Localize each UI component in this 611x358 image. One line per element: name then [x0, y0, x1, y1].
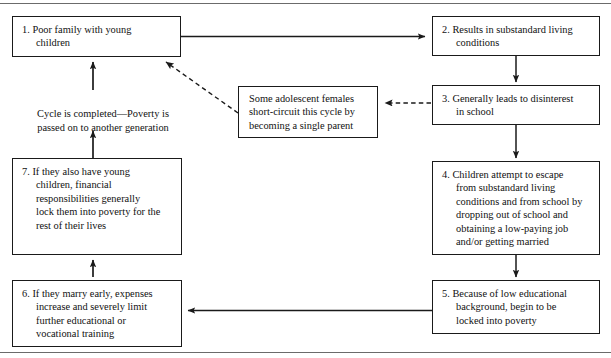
node-2-substandard-living[interactable]: 2. Results in substandard living conditi… — [432, 16, 600, 56]
node-4-children-escape[interactable]: 4. Children attempt to escape from subst… — [432, 161, 600, 255]
node-6-marry-early[interactable]: 6. If they marry early, expenses increas… — [12, 280, 182, 347]
node-5-locked-into-poverty[interactable]: 5. Because of low educational background… — [432, 280, 600, 334]
node-4-label: 4. Children attempt to escape from subst… — [442, 168, 590, 248]
node-3-disinterest-school[interactable]: 3. Generally leads to disinterest in sch… — [432, 85, 600, 125]
node-1-label: 1. Poor family with young children — [22, 23, 171, 50]
node-7-label: 7. If they also have young children, fin… — [22, 165, 172, 232]
node-shortcircuit-adolescent-females[interactable]: Some adolescent females short-circuit th… — [238, 86, 378, 138]
diagram-canvas: 1. Poor family with young children 2. Re… — [0, 0, 611, 358]
node-3-label: 3. Generally leads to disinterest in sch… — [442, 92, 590, 119]
node-5-label: 5. Because of low educational background… — [442, 287, 590, 327]
node-6-label: 6. If they marry early, expenses increas… — [22, 287, 172, 341]
caption-cycle-completed-text: Cycle is completed—Poverty is passed on … — [37, 108, 169, 134]
node-2-label: 2. Results in substandard living conditi… — [442, 23, 590, 50]
caption-cycle-completed: Cycle is completed—Poverty is passed on … — [8, 92, 198, 136]
node-7-young-children-financial[interactable]: 7. If they also have young children, fin… — [12, 158, 182, 255]
node-shortcircuit-label: Some adolescent females short-circuit th… — [249, 92, 367, 132]
node-1-poor-family[interactable]: 1. Poor family with young children — [12, 16, 181, 57]
